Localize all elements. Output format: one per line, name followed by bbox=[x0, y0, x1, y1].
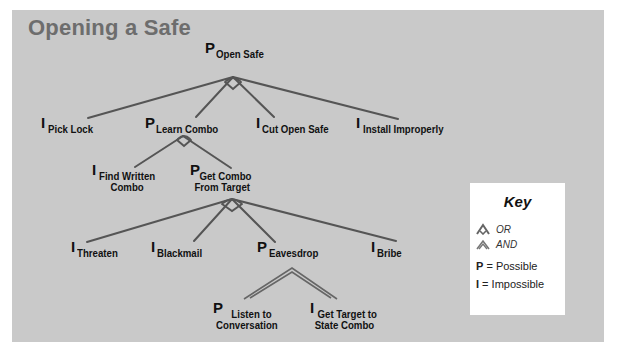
key-title: Key bbox=[470, 193, 565, 210]
node-label: Find Written Combo bbox=[99, 171, 155, 193]
node-label-line2: From Target bbox=[193, 182, 252, 193]
node-label: Listen to Conversation bbox=[216, 309, 278, 331]
node-label: Install Improperly bbox=[363, 124, 444, 135]
legend-key: Key OR AND P = Possible I = Impossible bbox=[470, 183, 565, 315]
key-impossible: I = Impossible bbox=[476, 278, 544, 290]
and-gate-eavesdrop-inner bbox=[250, 272, 331, 298]
node-label-line2: Combo bbox=[99, 182, 155, 193]
node-label: Eavesdrop bbox=[269, 248, 318, 259]
or-gate-root bbox=[225, 78, 241, 89]
key-or-label: OR bbox=[496, 224, 511, 235]
and-gate-icon bbox=[476, 238, 490, 250]
impossible-mark: I bbox=[356, 115, 360, 130]
node-label: Pick Lock bbox=[48, 124, 93, 135]
impossible-mark: I bbox=[151, 239, 155, 254]
edge-learn-combo-find-written bbox=[135, 136, 183, 167]
impossible-mark: I bbox=[371, 239, 375, 254]
edge-get-combo-bribe bbox=[232, 199, 396, 241]
possible-mark: P bbox=[257, 239, 267, 254]
possible-mark: P bbox=[205, 40, 215, 55]
impossible-mark: I bbox=[71, 239, 75, 254]
key-possible-text: = Possible bbox=[483, 260, 537, 272]
edge-get-combo-threaten bbox=[87, 199, 232, 242]
node-label: Bribe bbox=[377, 248, 402, 259]
node-label: Blackmail bbox=[157, 248, 202, 259]
impossible-mark: I bbox=[92, 162, 96, 177]
key-impossible-text: = Impossible bbox=[479, 278, 544, 290]
key-possible: P = Possible bbox=[476, 260, 537, 272]
node-label: Get Target to State Combo bbox=[312, 309, 377, 331]
impossible-mark: I bbox=[256, 115, 260, 130]
impossible-mark: I bbox=[41, 115, 45, 130]
possible-mark: P bbox=[145, 115, 155, 130]
node-label: Open Safe bbox=[216, 49, 264, 60]
edge-root-pick-lock bbox=[88, 77, 233, 118]
edge-root-install-improperly bbox=[233, 77, 398, 119]
node-label: Threaten bbox=[77, 248, 118, 259]
node-label-line2: State Combo bbox=[312, 320, 377, 331]
node-label: Cut Open Safe bbox=[262, 124, 329, 135]
key-and-label: AND bbox=[496, 239, 517, 250]
node-label: Learn Combo bbox=[156, 124, 218, 135]
or-gate-icon bbox=[476, 223, 490, 235]
node-label: Get Combo From Target bbox=[193, 171, 252, 193]
node-label-line2: Conversation bbox=[216, 320, 278, 331]
or-gate-get-combo bbox=[222, 200, 242, 212]
